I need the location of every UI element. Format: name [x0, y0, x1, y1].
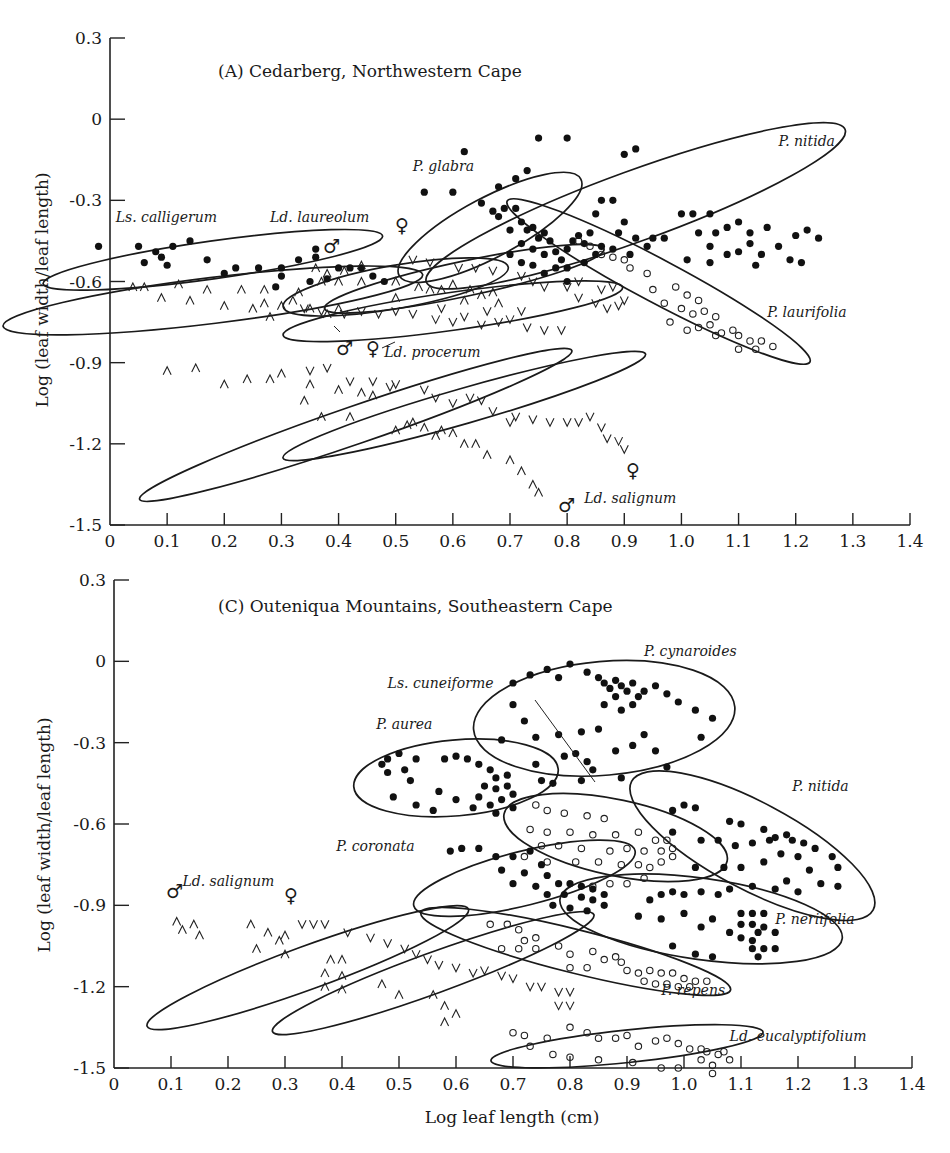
data-point	[621, 218, 628, 225]
data-point	[706, 210, 713, 217]
data-point	[529, 415, 537, 423]
data-point	[794, 853, 801, 860]
data-point	[726, 929, 733, 936]
data-point	[470, 804, 477, 811]
data-point	[707, 322, 713, 328]
data-point	[673, 284, 679, 290]
data-point	[346, 264, 353, 271]
data-point	[449, 189, 456, 196]
data-point	[558, 256, 565, 263]
data-point	[492, 853, 499, 860]
y-tick-label: -0.6	[73, 814, 106, 834]
y-tick-label: 0.3	[75, 28, 102, 48]
data-point	[538, 777, 545, 784]
data-point	[618, 682, 625, 689]
data-point	[663, 763, 670, 770]
data-point	[498, 946, 504, 952]
data-point	[521, 937, 527, 943]
data-point	[532, 883, 539, 890]
y-tick-label: 0.3	[79, 570, 106, 590]
data-point	[432, 315, 440, 323]
data-point	[612, 693, 619, 700]
species-label: Ld. eucalyptifolium	[729, 1028, 867, 1044]
data-point	[760, 910, 767, 917]
cluster-outlines	[140, 650, 894, 1077]
data-point	[495, 183, 502, 190]
data-point	[498, 972, 506, 980]
data-point	[506, 251, 513, 258]
data-point	[518, 218, 525, 225]
data-point	[135, 243, 142, 250]
data-point	[735, 332, 741, 338]
species-labels: Ls. calligerumLd. laureolumP. glabraP. n…	[115, 133, 847, 506]
data-point	[506, 418, 514, 426]
data-point	[732, 842, 739, 849]
data-point	[424, 956, 432, 964]
y-axis-label: Log (leaf width/leaf length)	[32, 172, 52, 407]
data-point	[253, 945, 261, 953]
female-symbol-icon: ♀	[395, 214, 409, 236]
male-symbol-icon: ♂	[558, 494, 575, 516]
data-point	[327, 956, 335, 964]
data-point	[555, 1002, 563, 1010]
data-point	[692, 707, 699, 714]
data-point	[509, 853, 516, 860]
data-point	[516, 927, 522, 933]
data-point	[777, 850, 784, 857]
data-point	[506, 456, 514, 464]
data-point	[618, 774, 625, 781]
data-point	[407, 777, 414, 784]
data-point	[590, 948, 596, 954]
y-tick-label: -0.3	[73, 733, 106, 753]
data-point	[532, 734, 539, 741]
data-point	[521, 853, 527, 859]
data-point	[698, 837, 705, 844]
cluster-outline	[321, 232, 608, 326]
data-point	[610, 254, 616, 260]
data-point	[595, 674, 602, 681]
data-point	[669, 942, 676, 949]
data-point	[726, 1057, 732, 1063]
x-tick-label: 0	[105, 531, 116, 551]
data-point	[338, 956, 346, 964]
data-point	[461, 148, 468, 155]
data-point	[163, 367, 171, 375]
data-point	[664, 1035, 670, 1041]
data-point	[663, 690, 670, 697]
data-point	[578, 894, 585, 901]
data-point	[726, 885, 733, 892]
x-tick-label: 1.3	[841, 1074, 868, 1094]
data-point	[607, 880, 613, 886]
data-point	[472, 440, 480, 448]
data-point	[692, 804, 699, 811]
data-point	[512, 175, 519, 182]
data-point	[698, 888, 705, 895]
data-point	[557, 326, 565, 334]
data-point	[695, 229, 702, 236]
data-point	[635, 829, 641, 835]
data-point	[475, 761, 482, 768]
data-point	[452, 964, 460, 972]
data-point	[381, 278, 388, 285]
data-point	[641, 848, 647, 854]
data-point	[529, 224, 536, 231]
data-point	[509, 880, 516, 887]
data-point	[624, 1032, 630, 1038]
x-tick-label: 0.1	[154, 531, 181, 551]
data-point	[760, 945, 767, 952]
data-point	[458, 845, 465, 852]
data-point	[749, 945, 756, 952]
data-point	[615, 437, 623, 445]
data-points	[173, 660, 842, 1076]
y-axis-label: Log (leaf width/leaf length)	[34, 717, 54, 952]
data-point	[564, 264, 571, 271]
y-tick-label: -1.5	[73, 1058, 106, 1078]
data-point	[623, 688, 630, 695]
data-point	[190, 920, 198, 928]
data-point	[535, 235, 542, 242]
data-point	[357, 388, 365, 396]
data-point	[544, 872, 551, 879]
data-point	[618, 861, 624, 867]
data-point	[567, 829, 573, 835]
data-point	[243, 375, 251, 383]
